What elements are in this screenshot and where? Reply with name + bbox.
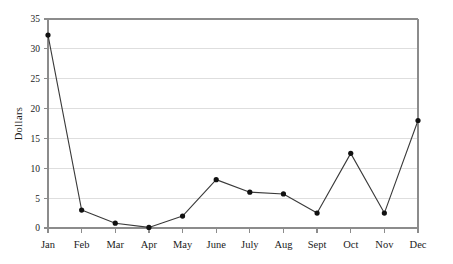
x-axis: JanFebMarAprMayJuneJulyAugSeptOctNovDec	[41, 228, 427, 250]
y-axis-title: Dollars	[13, 107, 24, 141]
x-tick-label-Aug: Aug	[274, 239, 293, 250]
plot-frame	[48, 19, 418, 228]
data-point-Oct	[348, 151, 353, 156]
y-tick-label-35: 35	[31, 14, 41, 24]
y-tick-label-30: 30	[31, 44, 41, 54]
x-tick-label-June: June	[207, 239, 227, 250]
gridlines	[48, 19, 418, 198]
y-tick-label-0: 0	[35, 223, 40, 233]
x-tick-label-July: July	[241, 239, 259, 250]
chart-canvas: 05101520253035DollarsJanFebMarAprMayJune…	[0, 0, 453, 264]
x-tick-label-Dec: Dec	[410, 239, 427, 250]
x-tick-label-Feb: Feb	[74, 239, 90, 250]
x-tick-label-May: May	[173, 239, 193, 250]
y-tick-label-25: 25	[31, 74, 41, 84]
y-tick-label-5: 5	[35, 194, 40, 204]
data-point-Mar	[113, 221, 118, 226]
data-point-July	[247, 190, 252, 195]
data-point-Feb	[79, 207, 84, 212]
data-point-Jan	[45, 33, 50, 38]
y-axis: 05101520253035	[31, 14, 49, 233]
x-tick-label-Jan: Jan	[41, 239, 56, 250]
data-point-June	[214, 177, 219, 182]
data-point-Nov	[382, 210, 387, 215]
x-tick-label-Oct: Oct	[343, 239, 358, 250]
x-tick-label-Nov: Nov	[375, 239, 394, 250]
data-point-Dec	[415, 118, 420, 123]
data-series-dollars	[45, 33, 420, 230]
data-point-Apr	[146, 225, 151, 230]
data-point-Sept	[314, 210, 319, 215]
y-tick-label-20: 20	[31, 104, 41, 114]
line-chart: 05101520253035DollarsJanFebMarAprMayJune…	[0, 0, 453, 264]
x-tick-label-Apr: Apr	[141, 239, 158, 250]
data-point-May	[180, 213, 185, 218]
x-tick-label-Mar: Mar	[107, 239, 125, 250]
x-tick-label-Sept: Sept	[308, 239, 327, 250]
y-tick-label-10: 10	[31, 164, 41, 174]
y-tick-label-15: 15	[31, 134, 41, 144]
data-point-Aug	[281, 191, 286, 196]
